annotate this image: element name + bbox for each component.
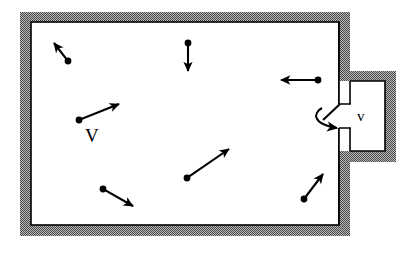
molecule-dot bbox=[315, 77, 322, 84]
molecule-dot bbox=[185, 40, 192, 47]
molecule-dot bbox=[65, 58, 72, 65]
molecule-dot bbox=[76, 117, 83, 124]
main-chamber-interior bbox=[31, 22, 339, 225]
side-volume-label: v bbox=[357, 109, 365, 124]
main-chamber-walls bbox=[20, 12, 350, 236]
figure-canvas: V v bbox=[0, 0, 413, 253]
molecule-dot bbox=[100, 186, 107, 193]
gas-container-diagram bbox=[0, 0, 413, 253]
molecule-dot bbox=[184, 175, 191, 182]
molecule-dot bbox=[301, 196, 308, 203]
main-volume-label: V bbox=[85, 126, 99, 145]
